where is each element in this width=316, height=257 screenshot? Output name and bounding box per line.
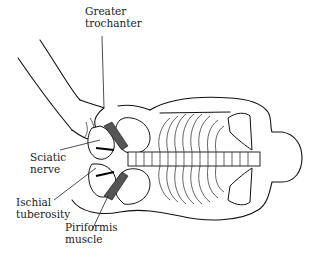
label-piriformis-muscle: Piriformis muscle [65, 221, 118, 245]
hand-arm [18, 40, 104, 140]
label-greater-trochanter: Greater trochanter [85, 5, 142, 29]
anatomy-figure: Greater trochanter Sciatic nerve Ischial… [0, 0, 316, 257]
spine [128, 152, 260, 166]
label-sciatic-nerve: Sciatic nerve [30, 151, 66, 175]
label-ischial-tuberosity: Ischial tuberosity [16, 196, 70, 220]
